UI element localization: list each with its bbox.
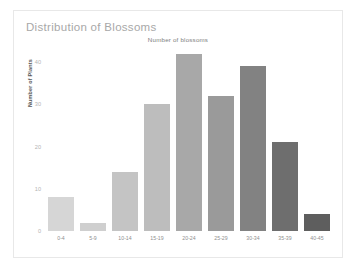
bar[interactable]	[240, 66, 266, 231]
bar-slot: 15-19	[141, 41, 173, 231]
x-tick-label: 25-29	[205, 235, 237, 241]
x-tick-label: 5-9	[77, 235, 109, 241]
bar[interactable]	[272, 142, 298, 231]
bar[interactable]	[112, 172, 138, 231]
bar-slot: 5-9	[77, 41, 109, 231]
plot-area: 010203040 0-45-910-1415-1920-2425-2930-3…	[45, 41, 333, 231]
y-tick-label: 10	[35, 186, 41, 192]
bar-slot: 0-4	[45, 41, 77, 231]
bars-layer: 0-45-910-1415-1920-2425-2930-3435-3940-4…	[45, 41, 333, 231]
bar[interactable]	[176, 54, 202, 231]
y-axis-title: Number of Plants	[27, 37, 33, 107]
chart-title: Distribution of Blossoms	[26, 21, 157, 33]
bar-slot: 40-45	[301, 41, 333, 231]
bar[interactable]	[304, 214, 330, 231]
y-tick-label: 30	[35, 101, 41, 107]
y-tick-label: 40	[35, 59, 41, 65]
x-tick-label: 30-34	[237, 235, 269, 241]
bar[interactable]	[48, 197, 74, 231]
bar-slot: 20-24	[173, 41, 205, 231]
x-tick-label: 40-45	[301, 235, 333, 241]
bar[interactable]	[80, 223, 106, 231]
bar[interactable]	[144, 104, 170, 231]
x-tick-label: 15-19	[141, 235, 173, 241]
x-tick-label: 35-39	[269, 235, 301, 241]
y-tick-label: 0	[38, 228, 41, 234]
bar-slot: 35-39	[269, 41, 301, 231]
x-tick-label: 10-14	[109, 235, 141, 241]
x-tick-label: 20-24	[173, 235, 205, 241]
chart-card: Distribution of Blossoms Number of bloss…	[13, 10, 343, 258]
bar[interactable]	[208, 96, 234, 231]
y-tick-label: 20	[35, 144, 41, 150]
bar-slot: 30-34	[237, 41, 269, 231]
x-tick-label: 0-4	[45, 235, 77, 241]
bar-slot: 10-14	[109, 41, 141, 231]
bar-slot: 25-29	[205, 41, 237, 231]
